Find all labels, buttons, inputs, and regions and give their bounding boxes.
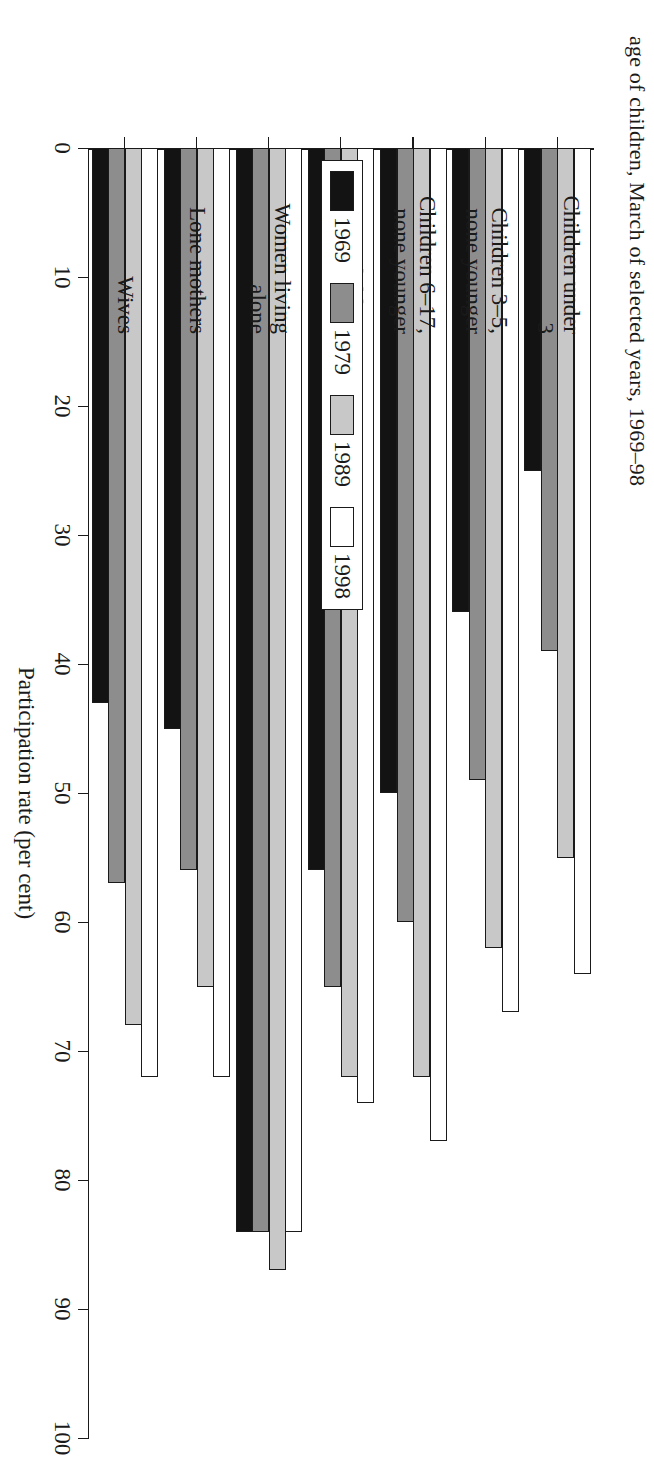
figure-title: age of children, March of selected years…: [624, 36, 650, 1456]
legend: 1969197919891998: [322, 160, 364, 610]
legend-swatch: [331, 283, 355, 323]
category-label-line: 3: [532, 134, 558, 334]
bar-group: [236, 148, 302, 1438]
category-label-line: Children under: [558, 134, 584, 334]
bar-1969: [164, 148, 181, 729]
legend-label: 1989: [330, 441, 356, 487]
category-label-line: Children 6–17,: [414, 134, 440, 334]
value-axis-tick-label: 30: [49, 524, 75, 547]
value-axis-tick: [78, 664, 89, 665]
category-label: Children under3: [532, 134, 584, 334]
legend-item-1989: 1989: [330, 395, 356, 487]
bar-1998: [141, 148, 158, 1077]
value-axis-tick-label: 70: [49, 1040, 75, 1063]
value-axis-tick-label: 10: [49, 266, 75, 289]
bar-1998: [213, 148, 230, 1077]
category-label-line: none younger: [460, 134, 486, 334]
category-label-line: Lone mothers: [184, 134, 210, 334]
value-axis-tick: [78, 1051, 89, 1052]
category-label-line: none younger: [388, 134, 414, 334]
value-axis-tick-label: 60: [49, 911, 75, 934]
category-label-line: Children 3–5,: [486, 134, 512, 334]
legend-swatch: [331, 507, 355, 547]
category-label-line: Wives: [112, 134, 138, 334]
value-axis-tick: [78, 148, 89, 149]
value-axis-tick: [78, 1309, 89, 1310]
bar-group: [381, 148, 447, 1438]
legend-swatch: [331, 395, 355, 435]
chart-figure: age of children, March of selected years…: [0, 0, 654, 1480]
value-axis-tick-label: 50: [49, 782, 75, 805]
value-axis-ticks: 0102030405060708090100: [49, 148, 89, 1438]
value-axis-tick-label: 20: [49, 395, 75, 418]
value-axis-tick: [78, 406, 89, 407]
bar-group: [164, 148, 230, 1438]
category-label: Children 3–5,none younger: [460, 134, 512, 334]
legend-label: 1969: [330, 217, 356, 263]
legend-item-1969: 1969: [330, 171, 356, 263]
legend-swatch: [331, 171, 355, 211]
bar-group: [92, 148, 158, 1438]
category-label: Lone mothers: [184, 134, 210, 334]
bar-1969: [92, 148, 109, 703]
value-axis-title: Participation rate (per cent): [13, 148, 39, 1438]
value-axis-tick: [78, 1180, 89, 1181]
category-label: Children 6–17,none younger: [388, 134, 440, 334]
value-axis-tick: [78, 793, 89, 794]
value-axis-tick: [78, 922, 89, 923]
value-axis-tick: [78, 277, 89, 278]
value-axis-tick-label: 0: [49, 142, 75, 154]
legend-item-1998: 1998: [330, 507, 356, 599]
legend-label: 1998: [330, 553, 356, 599]
value-axis-tick: [78, 1438, 89, 1439]
rotated-figure-wrapper: age of children, March of selected years…: [0, 0, 654, 1480]
legend-item-1979: 1979: [330, 283, 356, 375]
category-label: Women livingalone: [244, 134, 296, 334]
value-axis-tick-label: 40: [49, 653, 75, 676]
legend-label: 1979: [330, 329, 356, 375]
bar-group: [453, 148, 519, 1438]
value-axis-tick-label: 90: [49, 1298, 75, 1321]
value-axis-tick-label: 100: [49, 1421, 75, 1456]
category-label: Wives: [112, 134, 138, 334]
value-axis-tick: [78, 535, 89, 536]
value-axis-tick-label: 80: [49, 1169, 75, 1192]
bar-group: [525, 148, 591, 1438]
category-label-line: alone: [244, 134, 270, 334]
category-label-line: Women living: [269, 134, 295, 334]
